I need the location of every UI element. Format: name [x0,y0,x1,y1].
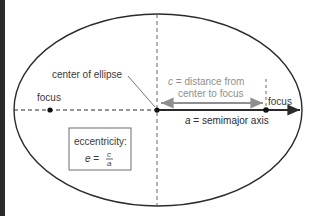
center-point [154,107,159,112]
right-focus-label: focus [268,96,292,107]
semimajor-label: a = semimajor axis [185,115,269,126]
left-focus-point [47,107,52,112]
eccentricity-lhs: e = [85,153,99,164]
c-definition-line1: c = distance from [168,76,244,87]
semimajor-text: = semimajor axis [191,115,269,126]
ellipse-diagram: center of ellipse focus focus c = distan… [0,0,313,216]
eccentricity-numerator: c [107,150,111,159]
left-focus-label: focus [37,92,61,103]
right-focus-point [263,107,269,113]
c-definition-text: = distance from [173,76,244,87]
eccentricity-denominator: a [107,159,112,168]
center-pointer-line [128,76,155,107]
eccentricity-box [69,128,131,170]
center-label: center of ellipse [52,69,122,80]
eccentricity-title: eccentricity: [74,136,127,147]
c-definition-line2: center to focus [178,88,244,99]
